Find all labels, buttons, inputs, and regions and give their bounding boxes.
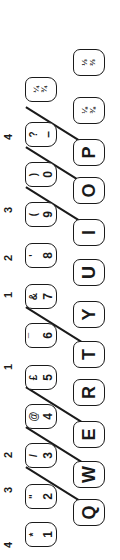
finger-label-right-middle: 2 <box>2 251 14 265</box>
key-r[interactable]: R <box>73 379 105 406</box>
key-4[interactable]: @4 <box>25 404 57 429</box>
key-shift-glyph: ? <box>29 131 40 137</box>
key-i[interactable]: I <box>73 219 105 246</box>
key-third-fractions[interactable]: ⅓⅔ <box>73 49 105 76</box>
key-letter: I <box>80 230 98 235</box>
key-main-glyph: 9 <box>42 211 54 218</box>
key-shift-glyph: ) <box>29 173 40 176</box>
key-shift-glyph: ' <box>29 254 40 256</box>
key-shift-glyph: * <box>29 533 40 537</box>
finger-label-left-pinky: 4 <box>2 538 14 552</box>
key-main-glyph: 7 <box>42 293 54 300</box>
finger-label-left-index: 1 <box>2 360 14 374</box>
key-main-glyph: 6 <box>42 332 54 339</box>
key-8[interactable]: '8 <box>25 243 57 268</box>
key-shift-glyph: £ <box>29 375 40 381</box>
key-question-dash[interactable]: ?– <box>25 122 57 147</box>
finger-label-right-index: 1 <box>2 288 14 302</box>
key-u[interactable]: U <box>73 259 105 286</box>
key-p[interactable]: P <box>73 139 105 166</box>
key-t[interactable]: T <box>73 341 105 368</box>
key-letter: Q <box>80 506 98 520</box>
key-letter: E <box>80 429 98 441</box>
key-letter: W <box>80 466 98 483</box>
key-quarter-fractions[interactable]: ¼¾ <box>25 77 57 102</box>
key-main-glyph: 4 <box>42 413 54 420</box>
key-main-glyph: ⅔ <box>89 59 97 66</box>
key-2[interactable]: "2 <box>25 484 57 509</box>
key-main-glyph: ⅜ <box>89 107 97 114</box>
key-letter: U <box>80 266 98 279</box>
key-main-glyph: ¾ <box>41 86 49 93</box>
key-shift-glyph: & <box>29 293 40 300</box>
typewriter-keyboard-diagram: 4 3 2 1 1 2 3 4 *1 "2 /3 @4 £5 ¯6 &7 '8 … <box>0 0 120 560</box>
finger-label-left-ring: 3 <box>2 483 14 497</box>
key-letter: T <box>80 349 98 360</box>
key-eighth-fractions[interactable]: ⅛⅜ <box>73 97 105 124</box>
key-5[interactable]: £5 <box>25 365 57 390</box>
key-shift-glyph: ¯ <box>29 333 40 339</box>
key-e[interactable]: E <box>73 421 105 448</box>
key-y[interactable]: Y <box>73 301 105 328</box>
key-letter: Y <box>80 309 98 321</box>
key-shift-glyph: " <box>29 494 40 499</box>
key-1[interactable]: *1 <box>25 522 57 547</box>
key-main-glyph: 8 <box>42 252 54 259</box>
key-0[interactable]: )0 <box>25 162 57 187</box>
key-o[interactable]: O <box>73 177 105 204</box>
key-9[interactable]: (9 <box>25 202 57 227</box>
key-main-glyph: – <box>42 131 54 138</box>
key-w[interactable]: W <box>73 461 105 488</box>
key-letter: R <box>80 386 98 399</box>
key-7[interactable]: &7 <box>25 284 57 309</box>
key-letter: O <box>80 184 98 198</box>
key-6[interactable]: ¯6 <box>25 323 57 348</box>
key-main-glyph: 2 <box>42 493 54 500</box>
key-shift-glyph: ( <box>29 213 40 216</box>
key-main-glyph: 5 <box>42 374 54 381</box>
key-3[interactable]: /3 <box>25 443 57 468</box>
key-main-glyph: 3 <box>42 452 54 459</box>
key-q[interactable]: Q <box>73 499 105 526</box>
key-shift-glyph: @ <box>29 412 40 422</box>
finger-label-left-middle: 2 <box>2 448 14 462</box>
key-main-glyph: 1 <box>42 531 54 538</box>
key-shift-glyph: / <box>29 454 40 457</box>
finger-label-right-pinky: 4 <box>2 130 14 144</box>
finger-label-right-ring: 3 <box>2 203 14 217</box>
key-letter: P <box>80 147 98 159</box>
key-main-glyph: 0 <box>42 171 54 178</box>
